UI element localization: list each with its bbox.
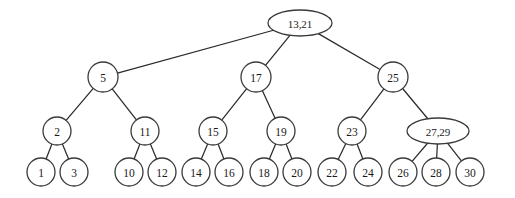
tree-diagram: 13,215172521115192327,291310121416182022… [0,0,515,198]
tree-edge [134,144,140,159]
tree-edge [360,89,383,120]
tree-node-label: 23 [346,126,358,138]
tree-node-label: 24 [362,167,374,179]
tree-edge [269,144,275,159]
tree-node-label: 18 [258,167,270,179]
tree-edge [46,144,52,159]
tree-node[interactable]: 25 [378,62,408,92]
tree-edge [222,89,247,120]
tree-edge [448,143,462,161]
tree-edge [412,143,427,161]
tree-node[interactable]: 1 [27,158,55,186]
tree-node[interactable]: 18 [250,158,278,186]
tree-node-label: 2 [54,126,60,138]
tree-edge [357,144,363,159]
tree-node-label: 26 [397,167,409,179]
tree-diagram-canvas: 13,215172521115192327,291310121416182022… [0,0,515,198]
tree-node[interactable]: 15 [199,117,227,145]
tree-node[interactable]: 12 [148,158,176,186]
tree-node-label: 19 [275,126,287,138]
tree-node-label: 12 [156,167,168,179]
tree-node-label: 10 [123,167,135,179]
tree-node[interactable]: 11 [131,117,159,145]
tree-node-label: 27,29 [426,126,451,138]
tree-node-label: 5 [100,72,106,84]
tree-edge [62,144,68,159]
tree-node-label: 13,21 [288,18,312,30]
tree-node-label: 11 [139,126,150,138]
tree-node-label: 14 [190,167,202,179]
tree-node-label: 1 [38,167,44,179]
tree-edge [201,144,207,159]
tree-node[interactable]: 10 [115,158,143,186]
tree-node[interactable]: 28 [422,158,450,186]
tree-edge [286,144,292,159]
tree-edge [262,91,275,119]
tree-node[interactable]: 19 [267,117,295,145]
tree-node-label: 15 [207,126,219,138]
tree-node[interactable]: 13,21 [268,10,332,36]
tree-node-label: 28 [430,167,442,179]
tree-node[interactable]: 24 [354,158,382,186]
tree-node[interactable]: 20 [283,158,311,186]
tree-edge [265,35,289,65]
tree-edge [437,144,438,158]
tree-edge [403,89,428,119]
tree-node-label: 16 [223,167,235,179]
tree-edge [112,89,136,120]
tree-edge [318,34,380,70]
tree-node[interactable]: 14 [182,158,210,186]
tree-edge [338,144,346,160]
tree-node[interactable]: 30 [456,158,484,186]
tree-node[interactable]: 22 [318,158,346,186]
edge-layer [46,30,461,161]
tree-edge [66,88,93,120]
tree-node[interactable]: 17 [241,62,271,92]
tree-node[interactable]: 2 [43,117,71,145]
tree-node[interactable]: 5 [88,62,118,92]
tree-node-label: 22 [326,167,338,179]
tree-node[interactable]: 23 [338,117,366,145]
tree-node-label: 17 [250,72,262,84]
tree-node-label: 3 [71,167,77,179]
tree-node[interactable]: 26 [389,158,417,186]
tree-edge [218,144,224,159]
tree-node-label: 30 [464,167,476,179]
tree-node-label: 20 [291,167,303,179]
node-layer: 13,215172521115192327,291310121416182022… [27,10,484,186]
tree-node-label: 25 [387,72,399,84]
tree-edge [150,144,156,159]
tree-node[interactable]: 27,29 [407,118,469,144]
tree-node[interactable]: 3 [60,158,88,186]
tree-node[interactable]: 16 [215,158,243,186]
